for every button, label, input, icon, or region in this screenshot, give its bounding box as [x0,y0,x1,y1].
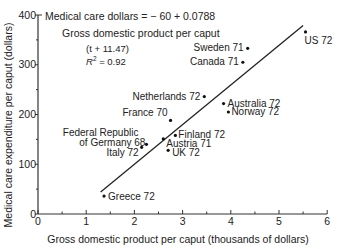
point-marker [241,61,244,64]
y-tick-label: 400 [18,9,36,21]
point-label: US 72 [305,35,333,46]
data-point: Federal Republicof Germany 68 [63,127,148,148]
y-axis-label: Medical care expenditure per caput (doll… [2,23,14,228]
x-tick-label: 3 [180,215,186,227]
equation-line-1: Medical care dollars = − 60 + 0.0788 [45,10,215,22]
scatter-chart: 01002003004000123456 US 72Sweden 71Canad… [0,0,345,249]
point-marker [222,102,225,105]
axis-labels: Gross domestic product per caput (thousa… [2,23,309,245]
x-axis-label: Gross domestic product per caput (thousa… [47,233,308,245]
y-tick-label: 200 [18,108,36,120]
data-point: Norway 72 [227,106,280,117]
data-point: US 72 [304,30,333,46]
point-label: Canada 71 [190,56,239,67]
point-label: Norway 72 [231,106,279,117]
point-marker [203,95,206,98]
point-marker [304,30,307,33]
data-point: France 70 [123,107,173,122]
equation-line-3: (t + 11.47) [86,43,129,54]
point-label: Sweden 71 [194,42,244,53]
equation-line-2: Gross domestic product per caput [62,27,220,39]
point-marker [246,47,249,50]
x-tick-label: 4 [228,215,234,227]
point-label: UK 72 [172,147,200,158]
y-tick-label: 100 [18,158,36,170]
x-tick-label: 2 [131,215,137,227]
point-marker [167,149,170,152]
data-point: Italy 72 [106,146,143,159]
data-point: Netherlands 72 [132,91,205,102]
data-point: Sweden 71 [194,42,250,53]
r-squared: R2 = 0.92 [86,55,126,67]
point-label: Greece 72 [108,191,155,202]
point-marker [169,119,172,122]
point-marker [102,194,105,197]
point-marker [162,137,165,140]
point-marker [174,134,177,137]
y-tick-label: 300 [18,58,36,70]
x-tick-label: 5 [276,215,282,227]
point-label: France 70 [123,107,168,118]
point-label: Italy 72 [106,147,139,158]
data-point: UK 72 [167,147,201,158]
data-point: Canada 71 [190,56,245,67]
point-marker [140,146,143,149]
x-tick-label: 0 [35,215,41,227]
point-marker [227,110,230,113]
x-tick-label: 1 [83,215,89,227]
data-point: Greece 72 [102,191,155,202]
point-label: Netherlands 72 [132,91,200,102]
x-tick-label: 6 [324,215,330,227]
